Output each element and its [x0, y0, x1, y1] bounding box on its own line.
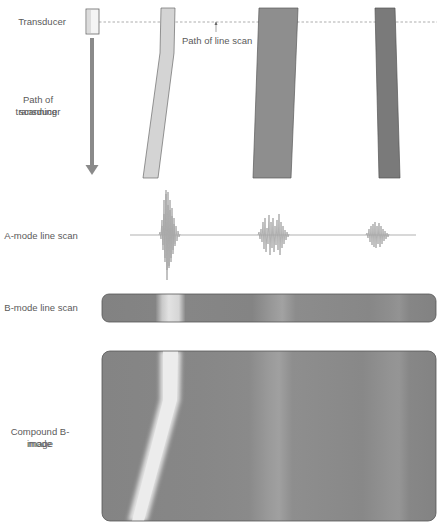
a-mode-label: A-mode line scan [0, 230, 82, 242]
path-of-transducer-label-2: scanning [0, 106, 76, 118]
transducer-label: Transducer [10, 16, 74, 28]
path-of-line-scan-label: Path of line scan [182, 35, 262, 47]
reflector-1 [143, 8, 175, 178]
b-mode-line-scan-bar [102, 294, 436, 322]
b-mode-label: B-mode line scan [0, 302, 82, 314]
compound-b-mode-image [102, 351, 436, 521]
scanning-direction-arrow-icon [86, 38, 99, 175]
reflector-2 [253, 8, 298, 178]
compound-label-2: image [0, 438, 80, 450]
reflector-3 [375, 8, 400, 178]
a-mode-waveform [130, 190, 416, 280]
